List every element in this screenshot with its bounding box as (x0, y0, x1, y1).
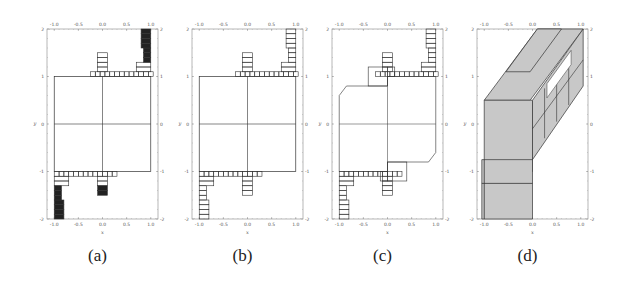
svg-text:2: 2 (471, 27, 474, 32)
svg-text:1.0: 1.0 (432, 222, 439, 227)
svg-text:0.0: 0.0 (384, 222, 391, 227)
svg-text:x: x (386, 229, 389, 235)
svg-text:-0.5: -0.5 (359, 222, 368, 227)
svg-text:0.5: 0.5 (553, 22, 560, 27)
svg-text:-2: -2 (305, 217, 310, 222)
panel-b-plot: -1.0-1.0-0.5-0.50.00.00.50.51.01.0221100… (178, 8, 323, 248)
svg-text:-1.0: -1.0 (50, 222, 59, 227)
svg-text:2: 2 (160, 27, 163, 32)
svg-text:0: 0 (590, 122, 593, 127)
svg-text:1: 1 (41, 74, 44, 79)
svg-text:0: 0 (41, 122, 44, 127)
panel-a-caption: (a) (25, 246, 170, 266)
svg-text:-1: -1 (40, 169, 45, 174)
svg-text:0: 0 (445, 122, 448, 127)
panel-a-plot: -1.0-1.0-0.5-0.50.00.00.50.51.01.0221100… (33, 8, 178, 248)
svg-text:0.5: 0.5 (268, 22, 275, 27)
svg-text:0: 0 (160, 122, 163, 127)
svg-text:-1: -1 (325, 169, 330, 174)
svg-text:y: y (33, 120, 37, 127)
svg-text:y: y (463, 120, 467, 127)
svg-text:-1: -1 (185, 169, 190, 174)
svg-text:2: 2 (445, 27, 448, 32)
svg-text:2: 2 (305, 27, 308, 32)
svg-text:2: 2 (186, 27, 189, 32)
svg-text:0.5: 0.5 (408, 222, 415, 227)
svg-text:-0.5: -0.5 (74, 222, 83, 227)
svg-text:1: 1 (186, 74, 189, 79)
svg-text:0.0: 0.0 (99, 22, 106, 27)
panel-d-plot: -1.0-1.0-0.5-0.50.00.00.50.51.01.0221100… (463, 8, 608, 248)
svg-text:2: 2 (590, 27, 593, 32)
svg-text:0.5: 0.5 (553, 222, 560, 227)
svg-text:0: 0 (305, 122, 308, 127)
svg-text:-2: -2 (325, 217, 330, 222)
svg-text:1: 1 (326, 74, 329, 79)
svg-text:1.0: 1.0 (432, 22, 439, 27)
svg-text:0: 0 (186, 122, 189, 127)
svg-text:0: 0 (326, 122, 329, 127)
svg-text:-0.5: -0.5 (219, 22, 228, 27)
svg-text:y: y (178, 120, 182, 127)
svg-text:-1.0: -1.0 (335, 22, 344, 27)
svg-text:2: 2 (41, 27, 44, 32)
svg-text:0.0: 0.0 (99, 222, 106, 227)
svg-text:0.0: 0.0 (244, 22, 251, 27)
svg-text:0.0: 0.0 (384, 22, 391, 27)
svg-text:0.0: 0.0 (529, 22, 536, 27)
svg-text:-2: -2 (590, 217, 595, 222)
svg-text:1: 1 (305, 74, 308, 79)
panel-b: -1.0-1.0-0.5-0.50.00.00.50.51.01.0221100… (178, 8, 323, 293)
svg-text:1: 1 (590, 74, 593, 79)
svg-text:0: 0 (471, 122, 474, 127)
svg-text:0.0: 0.0 (529, 222, 536, 227)
svg-text:-0.5: -0.5 (74, 22, 83, 27)
svg-text:-0.5: -0.5 (219, 222, 228, 227)
svg-text:0.0: 0.0 (244, 222, 251, 227)
svg-text:-0.5: -0.5 (359, 22, 368, 27)
svg-text:1.0: 1.0 (147, 222, 154, 227)
svg-text:-1.0: -1.0 (50, 22, 59, 27)
panel-d: -1.0-1.0-0.5-0.50.00.00.50.51.01.0221100… (463, 8, 608, 293)
svg-text:x: x (531, 229, 534, 235)
svg-text:0.5: 0.5 (123, 222, 130, 227)
svg-text:x: x (101, 229, 104, 235)
panel-a: -1.0-1.0-0.5-0.50.00.00.50.51.01.0221100… (33, 8, 178, 293)
svg-text:-1: -1 (445, 169, 450, 174)
svg-text:-1: -1 (470, 169, 475, 174)
svg-text:1.0: 1.0 (147, 22, 154, 27)
svg-text:0.5: 0.5 (268, 222, 275, 227)
panel-c-caption: (c) (310, 246, 455, 266)
svg-text:1: 1 (445, 74, 448, 79)
svg-text:-2: -2 (445, 217, 450, 222)
svg-text:-1.0: -1.0 (195, 22, 204, 27)
svg-text:1: 1 (160, 74, 163, 79)
svg-text:y: y (318, 120, 322, 127)
svg-text:1.0: 1.0 (577, 222, 584, 227)
panel-c: -1.0-1.0-0.5-0.50.00.00.50.51.01.0221100… (318, 8, 463, 293)
panel-d-caption: (d) (455, 246, 600, 266)
svg-text:0.5: 0.5 (408, 22, 415, 27)
svg-text:-2: -2 (160, 217, 165, 222)
svg-text:2: 2 (326, 27, 329, 32)
svg-text:1.0: 1.0 (292, 222, 299, 227)
svg-text:-2: -2 (470, 217, 475, 222)
svg-text:-1: -1 (305, 169, 310, 174)
svg-text:1.0: 1.0 (577, 22, 584, 27)
panel-c-plot: -1.0-1.0-0.5-0.50.00.00.50.51.01.0221100… (318, 8, 463, 248)
svg-text:x: x (246, 229, 249, 235)
svg-text:1.0: 1.0 (292, 22, 299, 27)
svg-text:-1.0: -1.0 (335, 222, 344, 227)
svg-text:-0.5: -0.5 (504, 22, 513, 27)
svg-text:-0.5: -0.5 (504, 222, 513, 227)
svg-text:-2: -2 (185, 217, 190, 222)
svg-text:-1.0: -1.0 (480, 222, 489, 227)
panel-b-caption: (b) (170, 246, 315, 266)
svg-text:-1: -1 (590, 169, 595, 174)
svg-text:0.5: 0.5 (123, 22, 130, 27)
svg-text:-1.0: -1.0 (195, 222, 204, 227)
svg-text:-2: -2 (40, 217, 45, 222)
svg-text:-1: -1 (160, 169, 165, 174)
svg-text:1: 1 (471, 74, 474, 79)
svg-text:-1.0: -1.0 (480, 22, 489, 27)
